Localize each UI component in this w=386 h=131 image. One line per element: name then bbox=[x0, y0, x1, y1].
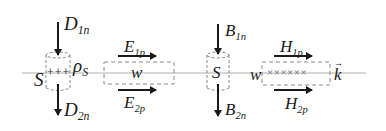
label-e1p: E1p bbox=[124, 38, 145, 58]
label-b1n: B1n bbox=[225, 22, 246, 42]
label-h1p: H1p bbox=[280, 38, 303, 58]
label-s-left: S bbox=[34, 70, 44, 89]
label-k: k bbox=[334, 66, 342, 83]
label-b2n: B2n bbox=[225, 101, 246, 121]
label-s-right: S bbox=[212, 64, 221, 81]
label-d2n: D2n bbox=[64, 100, 90, 123]
surface-currents: ×××××× bbox=[267, 67, 307, 78]
label-w-left: w bbox=[131, 64, 142, 81]
k-vector-arrow-icon: → bbox=[334, 59, 343, 68]
label-w-right: w bbox=[250, 66, 261, 83]
label-e2p: E2p bbox=[124, 94, 145, 114]
surface-charges: +++ bbox=[47, 66, 70, 78]
label-d1n: D1n bbox=[64, 14, 90, 37]
label-h2p: H2p bbox=[285, 95, 308, 115]
label-rho-s: ρS bbox=[73, 56, 88, 79]
